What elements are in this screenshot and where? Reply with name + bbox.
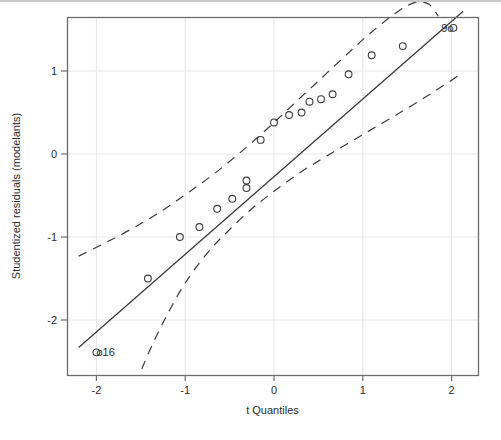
data-point — [145, 275, 152, 282]
data-point — [286, 112, 293, 119]
qq-plot-figure: -2-101210-1-2t QuantilesStudentized resi… — [0, 0, 501, 440]
data-point — [345, 71, 352, 78]
x-tick-label-3: 1 — [360, 384, 366, 396]
y-tick-label-0: 1 — [51, 65, 57, 77]
outlier-label-9: 9o — [441, 22, 453, 34]
lower-confidence-band — [142, 74, 461, 369]
y-tick-label-3: -2 — [47, 314, 57, 326]
data-point — [196, 224, 203, 231]
x-tick-label-1: -1 — [180, 384, 190, 396]
data-point — [399, 43, 406, 50]
data-point — [214, 205, 221, 212]
y-tick-label-1: 0 — [51, 148, 57, 160]
data-point — [298, 109, 305, 116]
data-point — [318, 96, 325, 103]
data-point — [229, 195, 236, 202]
upper-confidence-band — [79, 2, 439, 256]
data-point — [257, 136, 264, 143]
y-axis-title: Studentized residuals (modelants) — [10, 113, 22, 279]
x-tick-label-2: 0 — [271, 384, 277, 396]
qq-reference-line — [79, 11, 464, 347]
data-point — [329, 91, 336, 98]
data-point — [243, 185, 250, 192]
outlier-label-16: o16 — [96, 346, 114, 358]
gridlines — [67, 17, 478, 375]
top-divider — [0, 0, 501, 2]
data-point — [243, 177, 250, 184]
data-point — [306, 98, 313, 105]
qq-plot-canvas: -2-101210-1-2t QuantilesStudentized resi… — [0, 0, 501, 440]
x-tick-label-4: 2 — [449, 384, 455, 396]
data-point — [368, 52, 375, 59]
x-axis-title: t Quantiles — [246, 404, 299, 416]
y-tick-label-2: -1 — [47, 231, 57, 243]
x-tick-label-0: -2 — [92, 384, 102, 396]
